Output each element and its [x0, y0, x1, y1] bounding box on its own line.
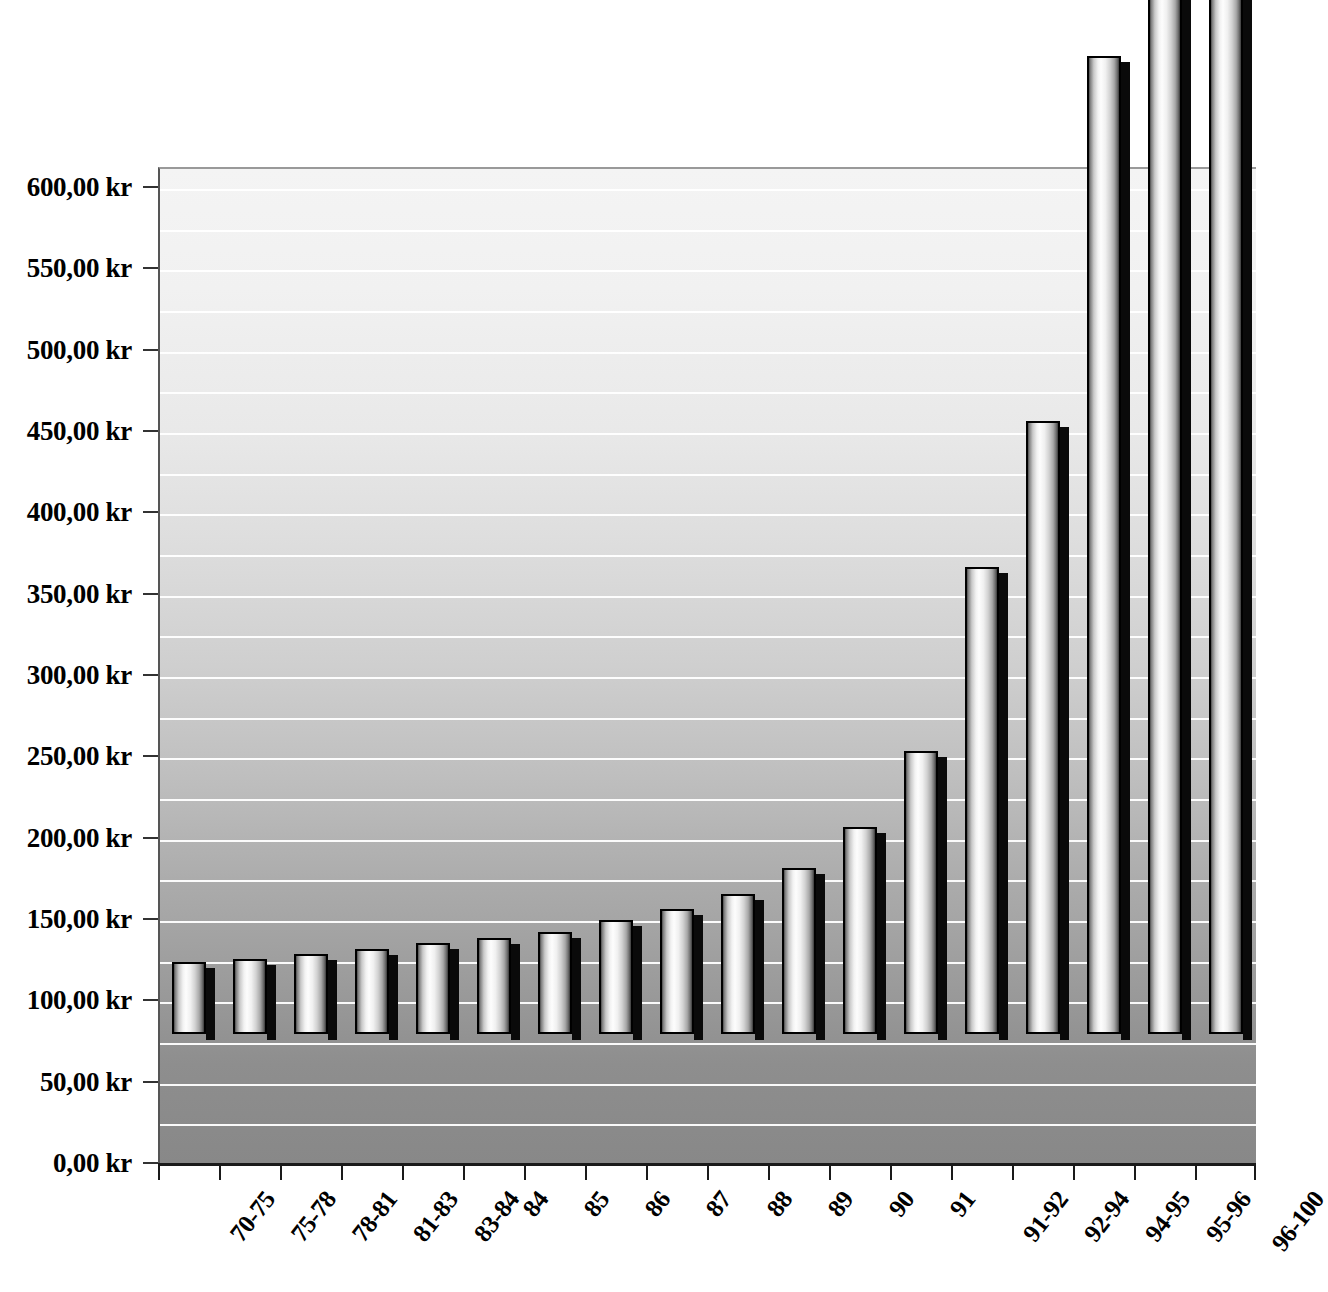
x-tick-label: 78-81 — [346, 1186, 402, 1247]
bar[interactable] — [233, 959, 267, 1034]
y-tick-label: 0,00 kr — [53, 1148, 132, 1179]
bar[interactable] — [782, 868, 816, 1034]
x-tick-label: 96-100 — [1266, 1186, 1328, 1257]
x-tick-mark — [1134, 1164, 1136, 1180]
bar[interactable] — [1148, 0, 1182, 1034]
bar-body — [233, 959, 267, 1034]
y-tick-mark — [143, 1162, 158, 1164]
bar[interactable] — [965, 567, 999, 1034]
y-tick-label: 500,00 kr — [27, 334, 132, 365]
bar-shadow — [755, 900, 764, 1040]
y-tick-mark — [143, 593, 158, 595]
x-tick-mark — [1012, 1164, 1014, 1180]
bar[interactable] — [1087, 56, 1121, 1034]
x-tick-mark — [1073, 1164, 1075, 1180]
bar-shadow — [450, 949, 459, 1040]
y-tick-label: 550,00 kr — [27, 253, 132, 284]
x-tick-mark — [768, 1164, 770, 1180]
y-axis: 0,00 kr50,00 kr100,00 kr150,00 kr200,00 … — [0, 0, 150, 1292]
x-tick-mark — [1254, 1164, 1256, 1180]
y-tick-mark — [143, 1081, 158, 1083]
x-tick-mark — [463, 1164, 465, 1180]
bar-body — [965, 567, 999, 1034]
x-tick-mark — [585, 1164, 587, 1180]
bar-shadow — [1121, 62, 1130, 1040]
x-tick-mark — [524, 1164, 526, 1180]
y-tick-label: 600,00 kr — [27, 172, 132, 203]
bar[interactable] — [721, 894, 755, 1034]
bar[interactable] — [843, 827, 877, 1034]
bar[interactable] — [599, 920, 633, 1034]
y-tick-mark — [143, 267, 158, 269]
bar-shadow — [511, 944, 520, 1040]
bar-shadow — [633, 926, 642, 1040]
bar[interactable] — [172, 962, 206, 1034]
x-tick-mark — [402, 1164, 404, 1180]
y-tick-label: 350,00 kr — [27, 578, 132, 609]
bar-body — [904, 751, 938, 1034]
y-tick-mark — [143, 755, 158, 757]
x-tick-mark — [219, 1164, 221, 1180]
bar-body — [477, 938, 511, 1034]
bar-body — [172, 962, 206, 1034]
x-tick-label: 92-94 — [1078, 1186, 1134, 1247]
bar[interactable] — [660, 909, 694, 1034]
x-tick-mark — [1195, 1164, 1197, 1180]
bar[interactable] — [294, 954, 328, 1034]
bar-shadow — [816, 874, 825, 1040]
y-tick-label: 200,00 kr — [27, 822, 132, 853]
bar-body — [782, 868, 816, 1034]
bar-body — [1148, 0, 1182, 1034]
bar-shadow — [999, 573, 1008, 1040]
y-tick-mark — [143, 430, 158, 432]
y-tick-mark — [143, 999, 158, 1001]
bar-shadow — [877, 833, 886, 1040]
y-tick-mark — [143, 349, 158, 351]
bar[interactable] — [477, 938, 511, 1034]
y-tick-label: 450,00 kr — [27, 416, 132, 447]
bar[interactable] — [904, 751, 938, 1034]
y-tick-mark — [143, 511, 158, 513]
x-tick-label: 91 — [944, 1186, 981, 1222]
x-tick-label: 83-84 — [468, 1186, 524, 1247]
bar-body — [1209, 0, 1243, 1034]
x-tick-label: 89 — [822, 1186, 859, 1222]
x-tick-mark — [707, 1164, 709, 1180]
bar[interactable] — [1209, 0, 1243, 1034]
bar-body — [294, 954, 328, 1034]
bar-body — [721, 894, 755, 1034]
y-tick-label: 300,00 kr — [27, 660, 132, 691]
bars-layer — [158, 0, 1256, 1163]
y-tick-label: 150,00 kr — [27, 904, 132, 935]
x-tick-label: 94-95 — [1139, 1186, 1195, 1247]
bar-body — [538, 932, 572, 1034]
bar[interactable] — [416, 943, 450, 1034]
bar-shadow — [1182, 0, 1191, 1040]
bar-shadow — [328, 960, 337, 1040]
bar[interactable] — [538, 932, 572, 1034]
x-tick-label: 75-78 — [285, 1186, 341, 1247]
y-tick-label: 400,00 kr — [27, 497, 132, 528]
bar-shadow — [1243, 0, 1252, 1040]
x-tick-mark — [341, 1164, 343, 1180]
bar-shadow — [389, 955, 398, 1040]
bar-shadow — [694, 915, 703, 1040]
x-tick-mark — [158, 1164, 160, 1180]
y-tick-mark — [143, 918, 158, 920]
y-tick-mark — [143, 186, 158, 188]
bar-body — [599, 920, 633, 1034]
y-tick-mark — [143, 837, 158, 839]
x-tick-label: 85 — [578, 1186, 615, 1222]
bar-body — [843, 827, 877, 1034]
bar[interactable] — [1026, 421, 1060, 1034]
x-tick-label: 88 — [761, 1186, 798, 1222]
bar-body — [1026, 421, 1060, 1034]
x-tick-mark — [890, 1164, 892, 1180]
bar[interactable] — [355, 949, 389, 1034]
y-tick-mark — [143, 674, 158, 676]
x-tick-label: 95-96 — [1200, 1186, 1256, 1247]
bar-body — [416, 943, 450, 1034]
bar-shadow — [206, 968, 215, 1040]
bar-shadow — [938, 757, 947, 1040]
